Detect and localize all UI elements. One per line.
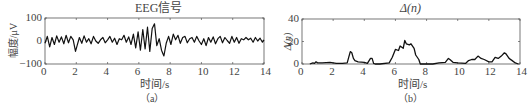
delta-line bbox=[310, 40, 519, 64]
y-tick-label: 20 bbox=[272, 36, 299, 47]
x-tick-label: 2 bbox=[72, 66, 78, 77]
plot-frame-b bbox=[302, 19, 520, 64]
x-axis-label-a: 时间/s bbox=[140, 79, 169, 90]
x-axis-label-b: 时间/s bbox=[398, 79, 427, 90]
y-tick-label: 100 bbox=[15, 12, 42, 23]
ticks-b bbox=[302, 19, 520, 64]
x-tick-label: 10 bbox=[197, 66, 208, 77]
y-tick-label: −100 bbox=[15, 58, 42, 69]
x-tick-label: 12 bbox=[229, 66, 240, 77]
x-tick-label: 4 bbox=[360, 66, 366, 77]
x-tick-label: 6 bbox=[135, 66, 141, 77]
x-tick-label: 10 bbox=[454, 66, 465, 77]
chart-title-b: Δ(n) bbox=[400, 3, 421, 14]
panel-b-delta-plot bbox=[302, 19, 520, 64]
y-tick-label: 0 bbox=[15, 35, 42, 46]
y-tick-label: 0 bbox=[272, 58, 299, 69]
panel-label-a: （a） bbox=[140, 93, 164, 104]
panel-a-eeg-plot bbox=[45, 18, 264, 64]
x-tick-label: 8 bbox=[166, 66, 172, 77]
eeg-line bbox=[45, 24, 264, 56]
panel-label-b: （b） bbox=[398, 93, 423, 104]
x-tick-label: 14 bbox=[516, 66, 527, 77]
x-tick-label: 2 bbox=[329, 66, 335, 77]
x-tick-label: 8 bbox=[423, 66, 429, 77]
x-tick-label: 6 bbox=[391, 66, 397, 77]
y-tick-label: 40 bbox=[272, 13, 299, 24]
figure bbox=[0, 0, 531, 108]
x-tick-label: 0 bbox=[298, 66, 304, 77]
x-tick-label: 4 bbox=[104, 66, 110, 77]
x-tick-label: 14 bbox=[260, 66, 271, 77]
chart-title-a: EEG信号 bbox=[135, 3, 182, 14]
x-tick-label: 12 bbox=[485, 66, 496, 77]
x-tick-label: 0 bbox=[41, 66, 47, 77]
